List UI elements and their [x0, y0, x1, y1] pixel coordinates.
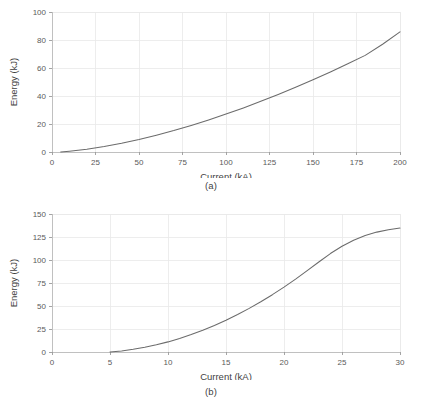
x-tick-label: 15 [222, 358, 231, 367]
y-tick-label: 100 [33, 256, 47, 265]
y-tick-label: 150 [33, 210, 47, 219]
figure-container: 0204060801000255075100125150175200Curren… [0, 0, 422, 414]
chart-a-svg: 0204060801000255075100125150175200Curren… [0, 0, 422, 178]
y-tick-label: 60 [37, 64, 46, 73]
y-tick-label: 100 [33, 8, 47, 17]
y-tick-label: 0 [42, 348, 47, 357]
x-tick-label: 30 [396, 358, 405, 367]
x-tick-label: 125 [263, 158, 277, 167]
x-tick-label: 200 [393, 158, 407, 167]
x-axis-title: Current (kA) [200, 371, 252, 380]
x-tick-label: 100 [219, 158, 233, 167]
panel-a-caption: (a) [0, 180, 422, 191]
x-tick-label: 150 [306, 158, 320, 167]
y-tick-label: 75 [37, 279, 46, 288]
y-tick-label: 20 [37, 120, 46, 129]
y-axis-title: Energy (kJ) [8, 58, 19, 107]
x-tick-label: 50 [135, 158, 144, 167]
x-tick-label: 75 [178, 158, 187, 167]
chart-panel-a: 0204060801000255075100125150175200Curren… [0, 0, 422, 200]
x-tick-label: 0 [50, 358, 55, 367]
x-tick-label: 25 [91, 158, 100, 167]
ticks-group: 0255075100125150051015202530 [33, 210, 405, 367]
y-tick-label: 25 [37, 325, 46, 334]
x-tick-label: 25 [338, 358, 347, 367]
y-axis-title: Energy (kJ) [8, 259, 19, 308]
chart-b-svg: 0255075100125150051015202530Current (kA)… [0, 200, 422, 380]
data-curve-energy [110, 228, 400, 352]
x-tick-label: 20 [280, 358, 289, 367]
ticks-group: 0204060801000255075100125150175200 [33, 8, 408, 167]
y-tick-label: 50 [37, 302, 46, 311]
x-tick-label: 10 [164, 358, 173, 367]
gridlines-group [52, 214, 400, 352]
chart-panel-b: 0255075100125150051015202530Current (kA)… [0, 200, 422, 414]
data-curve-energy [61, 32, 400, 152]
gridlines-group [52, 12, 400, 152]
x-tick-label: 0 [50, 158, 55, 167]
x-axis-title: Current (kA) [200, 171, 252, 178]
y-tick-label: 40 [37, 92, 46, 101]
panel-b-caption: (b) [0, 386, 422, 397]
x-tick-label: 175 [350, 158, 364, 167]
y-tick-label: 125 [33, 233, 47, 242]
y-tick-label: 0 [42, 148, 47, 157]
x-tick-label: 5 [108, 358, 113, 367]
y-tick-label: 80 [37, 36, 46, 45]
